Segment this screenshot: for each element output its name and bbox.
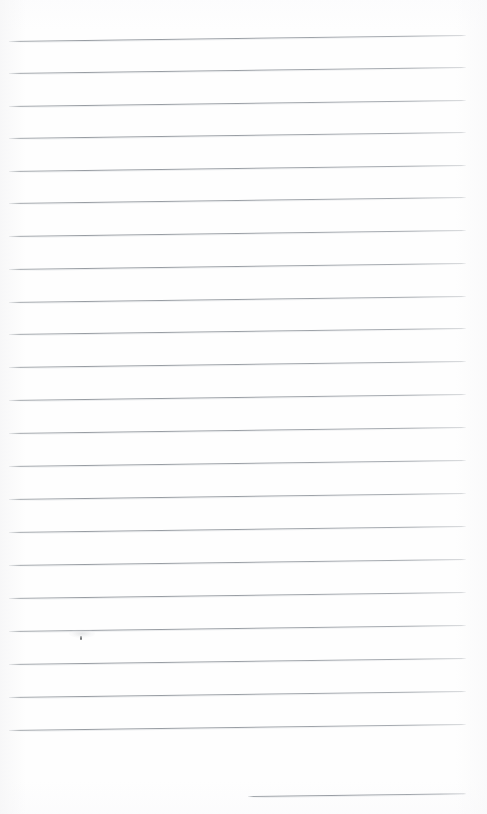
ruled-line [248, 793, 466, 797]
ruled-line-ink [9, 328, 466, 335]
ruled-line-ink [9, 230, 466, 237]
ruled-line [9, 35, 466, 42]
ruled-line [9, 691, 466, 698]
ruled-line [9, 165, 466, 172]
ink-smudge [69, 629, 95, 638]
ruled-line-ink [9, 724, 466, 731]
ruled-line [9, 427, 466, 434]
ruled-line-ink [9, 526, 466, 533]
ruled-line [9, 197, 466, 204]
paper-texture [0, 0, 487, 814]
ruled-line-ink [9, 493, 466, 500]
ruled-line-ink [9, 165, 466, 172]
ruled-line-ink [248, 793, 466, 797]
ruled-line-ink [9, 296, 466, 303]
ruled-line-ink [9, 100, 466, 107]
ruled-line-ink [9, 427, 466, 434]
ruled-line-ink [9, 67, 466, 74]
ruled-line [9, 100, 466, 107]
ruled-line [9, 592, 466, 599]
ruled-line [9, 132, 466, 139]
ruled-line [9, 361, 466, 368]
ruled-line [9, 625, 466, 632]
ruled-line-ink [9, 658, 466, 665]
ruled-line [9, 296, 466, 303]
ruled-line-ink [9, 691, 466, 698]
ruled-line [9, 724, 466, 731]
ruled-line-ink [9, 263, 466, 270]
ruled-line-ink [9, 394, 466, 401]
ink-speck [80, 636, 82, 640]
ruled-line [9, 559, 466, 566]
ruled-line-ink [9, 35, 466, 42]
ruled-line-ink [9, 132, 466, 139]
ruled-line [9, 658, 466, 665]
ruled-line [9, 526, 466, 533]
ruled-line [9, 493, 466, 500]
ruled-line-ink [9, 197, 466, 204]
ruled-line-ink [9, 625, 466, 632]
ruled-line [9, 328, 466, 335]
ruled-line [9, 263, 466, 270]
ruled-line [9, 460, 466, 467]
scanned-page [0, 0, 487, 814]
ruled-line [9, 230, 466, 237]
ruled-line-ink [9, 460, 466, 467]
ruled-line-ink [9, 361, 466, 368]
ruled-line [9, 67, 466, 74]
ruled-line-ink [9, 559, 466, 566]
ruled-line [9, 394, 466, 401]
ruled-line-ink [9, 592, 466, 599]
